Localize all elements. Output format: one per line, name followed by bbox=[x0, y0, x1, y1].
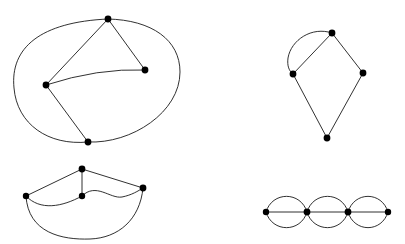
edge-left-top bbox=[26, 169, 82, 196]
vertex-1 bbox=[263, 209, 269, 215]
vertex-2 bbox=[304, 209, 311, 216]
edge-mid-right-wave bbox=[82, 188, 143, 197]
vertex-right bbox=[142, 67, 149, 74]
top-left-graph bbox=[14, 16, 180, 146]
vertex-bottom bbox=[85, 139, 92, 146]
vertex-4 bbox=[385, 209, 391, 215]
edge-top-right bbox=[108, 19, 145, 70]
vertex-3 bbox=[345, 209, 352, 216]
vertex-left bbox=[43, 82, 50, 89]
graph-figure-canvas bbox=[0, 0, 405, 244]
bottom-right-graph bbox=[263, 196, 391, 228]
edge-lens1-top bbox=[266, 196, 307, 212]
bottom-left-graph bbox=[23, 166, 147, 239]
vertex-top bbox=[79, 166, 86, 173]
edge-top-left-arc bbox=[288, 31, 332, 74]
edge-lens3-top bbox=[348, 196, 388, 212]
edge-lens1-bottom bbox=[266, 212, 307, 228]
edge-top-right bbox=[332, 33, 363, 73]
edge-left-bottom bbox=[293, 74, 327, 138]
vertex-left bbox=[23, 193, 29, 199]
vertex-top bbox=[105, 16, 112, 23]
edge-left-right bbox=[46, 70, 145, 85]
vertex-left bbox=[290, 71, 297, 78]
vertex-top bbox=[329, 30, 336, 37]
vertex-right bbox=[360, 70, 367, 77]
edge-outer-right bbox=[88, 19, 180, 142]
edge-top-left bbox=[46, 19, 108, 85]
edge-left-bottom bbox=[46, 85, 88, 142]
edge-left-mid bbox=[26, 196, 82, 206]
edge-lens2-bottom bbox=[307, 212, 348, 228]
edge-lens2-top bbox=[307, 196, 348, 212]
edge-right-bottom bbox=[327, 73, 363, 138]
vertex-bottom bbox=[324, 135, 331, 142]
top-right-graph bbox=[288, 30, 367, 142]
edge-top-right bbox=[82, 169, 143, 188]
vertex-right bbox=[140, 185, 147, 192]
vertex-mid bbox=[79, 193, 85, 199]
edge-lens3-bottom bbox=[348, 212, 388, 228]
